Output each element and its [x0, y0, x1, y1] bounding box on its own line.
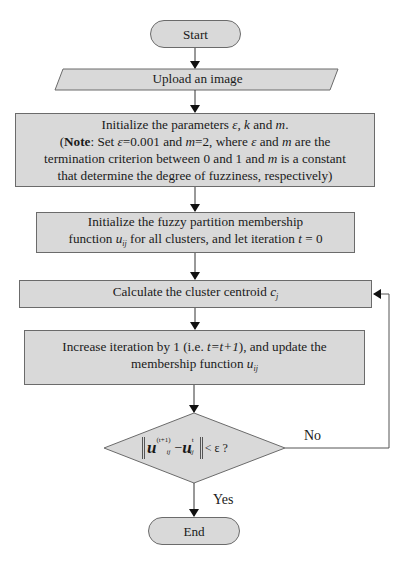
- init-params-line3: termination criterion between 0 and 1 an…: [44, 150, 346, 167]
- end-label: End: [183, 523, 204, 540]
- decision-condition: u(t+1)ij − utij < ε ?: [142, 437, 228, 459]
- init-parameters-box: Initialize the parameters ε, k and m. (N…: [15, 113, 375, 187]
- calculate-centroid-box: Calculate the cluster centroid cj: [19, 280, 372, 308]
- init-params-line4: that determine the degree of fuzziness, …: [58, 167, 333, 184]
- start-terminal: Start: [150, 20, 241, 48]
- norm-expression: u(t+1)ij − utij: [142, 437, 203, 459]
- upload-label: Upload an image: [60, 71, 335, 87]
- no-label: No: [304, 428, 321, 444]
- end-terminal: End: [148, 517, 240, 545]
- condition-tail: < ε ?: [205, 441, 228, 456]
- init-params-note: (Note: Set ε=0.001 and m=2, where ε and …: [60, 133, 331, 150]
- yes-label: Yes: [213, 492, 233, 508]
- increase-iteration-box: Increase iteration by 1 (i.e. t=t+1), an…: [24, 330, 365, 385]
- init-membership-box: Initialize the fuzzy partition membershi…: [36, 212, 355, 253]
- init-params-line1: Initialize the parameters ε, k and m.: [102, 116, 289, 133]
- start-label: Start: [183, 26, 208, 43]
